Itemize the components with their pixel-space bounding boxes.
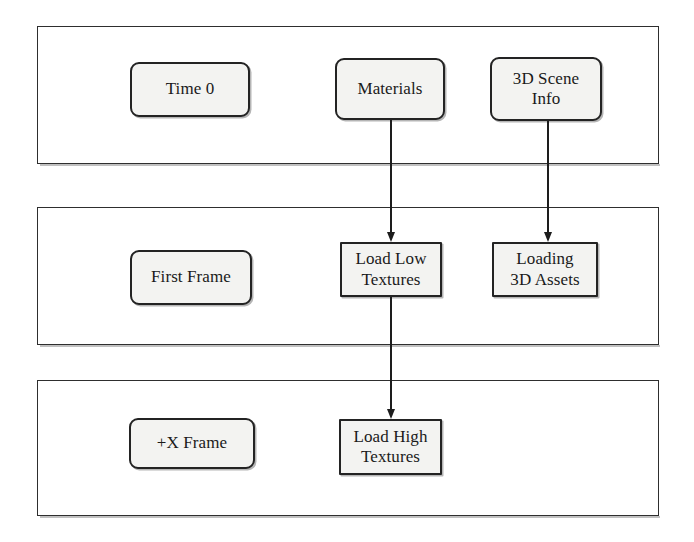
arrowhead-icon — [387, 232, 395, 242]
node-first-frame-label: First Frame — [147, 267, 235, 287]
arrowhead-icon — [387, 409, 395, 419]
node-time-0[interactable]: Time 0 — [130, 62, 250, 117]
diagram-canvas: Time 0 Materials 3D Scene Info First Fra… — [0, 0, 694, 542]
node-load-high-textures[interactable]: Load High Textures — [339, 419, 442, 475]
node-first-frame[interactable]: First Frame — [130, 250, 252, 305]
connector-scene-info-to-loading-3d-assets — [547, 121, 549, 242]
node-materials-label: Materials — [353, 79, 426, 99]
node-load-low-textures-label: Load Low Textures — [351, 249, 430, 289]
node-plus-x-frame[interactable]: +X Frame — [129, 418, 255, 469]
connector-line — [390, 297, 392, 410]
node-plus-x-frame-label: +X Frame — [153, 433, 231, 453]
connector-line — [547, 121, 549, 233]
node-materials[interactable]: Materials — [335, 58, 445, 120]
node-loading-3d-assets[interactable]: Loading 3D Assets — [492, 242, 598, 297]
arrowhead-icon — [544, 232, 552, 242]
connector-materials-to-load-low-textures — [390, 120, 392, 242]
node-3d-scene-info-label: 3D Scene Info — [509, 69, 583, 109]
node-3d-scene-info[interactable]: 3D Scene Info — [490, 57, 602, 121]
node-time-0-label: Time 0 — [162, 79, 219, 99]
node-load-high-textures-label: Load High Textures — [349, 427, 431, 467]
connector-load-low-to-load-high-textures — [390, 297, 392, 419]
node-loading-3d-assets-label: Loading 3D Assets — [506, 249, 583, 289]
connector-line — [390, 120, 392, 233]
node-load-low-textures[interactable]: Load Low Textures — [340, 242, 442, 297]
